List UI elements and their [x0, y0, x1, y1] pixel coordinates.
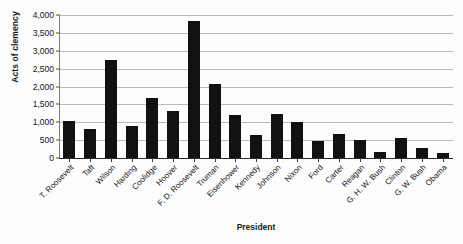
x-label-slot: F. D. Roosevelt	[183, 162, 204, 218]
x-label-slot: Obama	[432, 162, 453, 218]
x-tick-label: Nixon	[283, 163, 304, 184]
bar	[188, 21, 200, 158]
bar-slot	[246, 15, 267, 158]
bar	[291, 122, 303, 158]
y-tick-label: 2,000	[33, 82, 54, 92]
x-label-slot: Taft	[80, 162, 101, 218]
bar-slot	[121, 15, 142, 158]
y-tick-label: 0	[49, 153, 54, 163]
y-tick-label: 3,000	[33, 46, 54, 56]
bar	[416, 148, 428, 158]
plot-area: 05001,0001,5002,0002,5003,0003,5004,000	[59, 15, 453, 158]
x-tick-label: Taft	[81, 163, 96, 178]
bar	[333, 134, 345, 158]
bar-slot	[183, 15, 204, 158]
bar	[229, 115, 241, 158]
x-label-slot: G. W. Bush	[411, 162, 432, 218]
x-label-slot: G. H. W. Bush	[370, 162, 391, 218]
y-tick-label: 4,000	[33, 10, 54, 20]
x-label-slot: T. Roosevelt	[59, 162, 80, 218]
x-tick-label: Ford	[307, 163, 325, 181]
bar-slot	[411, 15, 432, 158]
y-tick-label: 500	[40, 135, 54, 145]
x-tick-label: T. Roosevelt	[38, 163, 75, 200]
x-label-slot: Carter	[329, 162, 350, 218]
bar-slot	[80, 15, 101, 158]
x-label-slot: Johnson	[266, 162, 287, 218]
y-tick-label: 1,000	[33, 117, 54, 127]
y-tick-label: 1,500	[33, 99, 54, 109]
bar	[312, 141, 324, 158]
bar-slot	[329, 15, 350, 158]
y-tick-label: 3,500	[33, 28, 54, 38]
bar	[250, 135, 262, 158]
x-label-slot: Wilson	[100, 162, 121, 218]
bar	[167, 111, 179, 158]
bar-slot	[59, 15, 80, 158]
x-label-slot: Ford	[308, 162, 329, 218]
bar	[354, 140, 366, 158]
bar	[126, 126, 138, 158]
bar-slot	[100, 15, 121, 158]
bar	[209, 84, 221, 158]
y-tick-label: 2,500	[33, 64, 54, 74]
x-axis-title: President	[59, 222, 453, 232]
bar-slot	[391, 15, 412, 158]
bar-slot	[370, 15, 391, 158]
bar	[105, 60, 117, 158]
x-label-slot: Coolidge	[142, 162, 163, 218]
bar	[84, 129, 96, 158]
bar	[395, 138, 407, 158]
bar-slot	[308, 15, 329, 158]
bar-chart: Acts of clemency 05001,0001,5002,0002,50…	[0, 0, 463, 244]
x-label-slot: Harding	[121, 162, 142, 218]
bar-slot	[204, 15, 225, 158]
bar-slot	[349, 15, 370, 158]
bar	[63, 121, 75, 158]
bar-series	[59, 15, 453, 158]
y-axis-title: Acts of clemency	[10, 0, 20, 112]
bar	[271, 114, 283, 158]
bar-slot	[225, 15, 246, 158]
bar-slot	[266, 15, 287, 158]
bar-slot	[287, 15, 308, 158]
bar-slot	[163, 15, 184, 158]
x-label-slot: Kennedy	[246, 162, 267, 218]
bar-slot	[432, 15, 453, 158]
x-label-slot: Eisenhower	[225, 162, 246, 218]
bar	[146, 98, 158, 158]
bar-slot	[142, 15, 163, 158]
x-label-slot: Nixon	[287, 162, 308, 218]
x-axis-tick-labels: T. RooseveltTaftWilsonHardingCoolidgeHoo…	[59, 162, 453, 218]
